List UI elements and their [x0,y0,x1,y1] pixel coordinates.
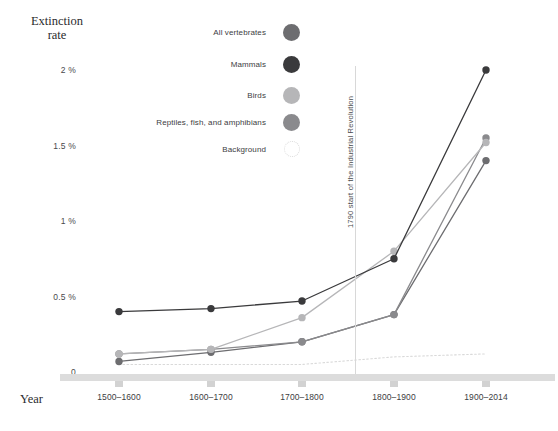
extinction-rate-chart: Extinction rate 00.5 %1 %1.5 %2 % 1790 s… [0,0,558,431]
legend-item-label: Birds [136,91,266,101]
y-tick-label: 0.5 % [14,292,76,302]
x-tick-label: 1800–1900 [349,392,439,402]
plot-area [85,55,540,377]
data-point[interactable] [298,297,305,304]
data-point[interactable] [482,66,489,73]
legend-item-label: Background [136,145,266,155]
filled-circle-icon [283,24,300,41]
filled-circle-icon [283,87,300,104]
x-tick-label: 1500–1600 [74,392,164,402]
x-tick-label: 1600–1700 [166,392,256,402]
data-point[interactable] [207,346,214,353]
data-point[interactable] [298,338,305,345]
data-point[interactable] [390,255,397,262]
data-point[interactable] [207,305,214,312]
industrial-revolution-label: 1790 start of the Industrial Revolution [346,88,355,228]
y-tick-label: 1 % [14,216,76,226]
legend-item-label: Mammals [136,60,266,70]
x-tick-mark [207,381,215,387]
x-tick-mark [390,381,398,387]
series-line [119,142,486,353]
series-line [119,161,486,362]
x-axis-title: Year [20,392,70,406]
data-point[interactable] [298,314,305,321]
x-tick-mark [298,381,306,387]
y-axis-title-line2: rate [18,28,96,42]
series-line [119,70,486,312]
x-tick-label: 1900–2014 [441,392,531,402]
series-line [119,138,486,354]
legend-item-label: All vertebrates [136,28,266,38]
y-tick-label: 1.5 % [14,141,76,151]
x-tick-mark [115,381,123,387]
industrial-revolution-line [355,66,356,377]
data-point[interactable] [482,139,489,146]
data-point[interactable] [115,358,122,365]
y-axis-title-line1: Extinction [18,14,96,28]
data-point[interactable] [115,350,122,357]
series-lines [85,55,540,377]
filled-circle-icon [283,56,300,73]
x-tick-label: 1700–1800 [257,392,347,402]
y-axis-title: Extinction rate [18,14,96,42]
data-point[interactable] [482,157,489,164]
y-tick-label: 2 % [14,65,76,75]
data-point[interactable] [390,311,397,318]
x-axis-baseline [60,374,555,381]
legend-item-label: Reptiles, fish, and amphibians [136,118,266,128]
x-tick-mark [482,381,490,387]
filled-circle-icon [283,114,300,131]
data-point[interactable] [115,308,122,315]
